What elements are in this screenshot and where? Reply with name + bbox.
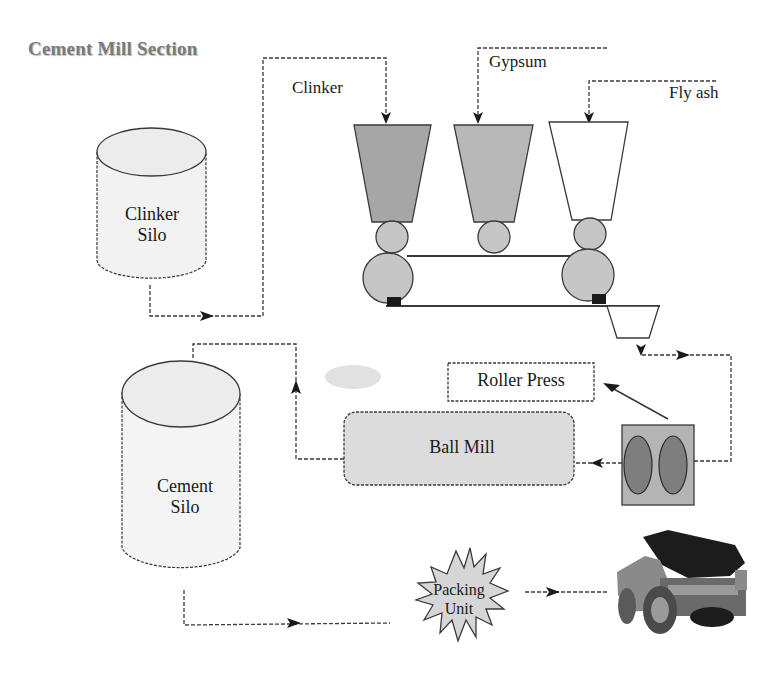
packing-unit-line1: Packing: [433, 580, 485, 599]
flyash-hopper: [549, 122, 628, 220]
dump-truck-icon: [617, 530, 747, 634]
arrow-clinker-silo-out: [200, 311, 214, 321]
arrow-to-packing: [287, 618, 301, 628]
silo-to-packing-line: [184, 590, 390, 625]
ball-mill-label: Ball Mill: [429, 437, 495, 458]
clinker-hopper: [354, 125, 431, 222]
arrow-discharge-down: [636, 344, 646, 356]
press-roll-right: [659, 436, 687, 494]
right-roller-scraper: [592, 294, 606, 304]
roller-press-label: Roller Press: [477, 370, 565, 391]
flyash-feeder-roller: [574, 218, 606, 250]
smudge: [325, 365, 381, 389]
clinker-feeder-roller: [376, 221, 408, 253]
diagram-canvas: [0, 0, 774, 685]
arrow-to-truck: [546, 587, 560, 597]
clinker-input-label: Clinker: [292, 78, 343, 98]
cement-silo-shape: [122, 361, 240, 568]
left-belt-roller: [363, 253, 413, 303]
left-roller-scraper: [387, 297, 401, 306]
clinker-silo-line1: Clinker: [125, 204, 179, 225]
packing-unit-label: Packing Unit: [433, 580, 485, 618]
right-belt-roller: [562, 249, 614, 301]
press-roll-left: [624, 436, 652, 494]
cement-silo-line1: Cement: [157, 476, 213, 497]
clinker-silo-line2: Silo: [125, 225, 179, 246]
gypsum-input-label: Gypsum: [489, 52, 547, 72]
clinker-silo-label: Clinker Silo: [125, 204, 179, 245]
press-label-pointer: [612, 388, 668, 419]
gypsum-hopper: [454, 125, 533, 222]
discharge-hopper: [607, 306, 659, 338]
packing-unit-line2: Unit: [433, 599, 485, 618]
cement-silo-label: Cement Silo: [157, 476, 213, 517]
arrow-clinker-in: [381, 112, 391, 124]
gypsum-feeder-roller: [478, 221, 510, 253]
diagram-title: Cement Mill Section: [28, 38, 197, 60]
flyash-input-label: Fly ash: [669, 83, 719, 103]
cement-silo-line2: Silo: [157, 497, 213, 518]
cement-mill-diagram: Cement Mill Section Clinker Gypsum Fly a…: [0, 0, 774, 685]
